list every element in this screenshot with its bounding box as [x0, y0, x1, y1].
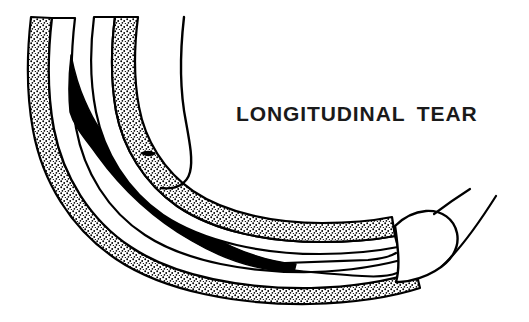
anatomical-diagram [0, 0, 529, 322]
bulbous-insertion [395, 211, 458, 282]
upper-shaft-outline [161, 17, 191, 188]
figure-root: LONGITUDINAL TEAR [0, 0, 529, 322]
tear-label: LONGITUDINAL TEAR [236, 103, 478, 124]
diagram-layers [28, 17, 496, 304]
tail-line-upper [434, 189, 470, 214]
